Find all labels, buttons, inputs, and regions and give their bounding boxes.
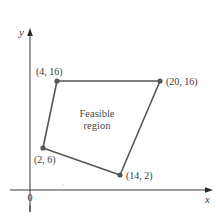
vertex-label-20-16: (20, 16) (166, 76, 198, 88)
vertex-label-14-2: (14, 2) (126, 170, 153, 182)
vertex-label-2-6: (2, 6) (34, 154, 56, 166)
y-axis-arrow-icon (27, 28, 33, 36)
scan-speck (62, 184, 63, 185)
x-axis (10, 187, 213, 193)
feasible-region-diagram: (4, 16) (20, 16) (14, 2) (2, 6) Feasible… (0, 0, 216, 220)
region-label-line1: Feasible (80, 108, 115, 119)
y-axis-label: y (18, 26, 24, 38)
x-axis-arrow-icon (205, 187, 213, 193)
region-label-line2: region (84, 120, 112, 131)
vertex-2-6 (40, 145, 45, 150)
vertex-4-16 (54, 78, 59, 83)
y-axis (27, 28, 33, 212)
vertex-20-16 (157, 78, 162, 83)
origin-label: 0 (28, 192, 33, 203)
vertex-label-4-16: (4, 16) (36, 66, 63, 78)
x-axis-label: x (204, 193, 210, 205)
vertex-14-2 (117, 172, 122, 177)
